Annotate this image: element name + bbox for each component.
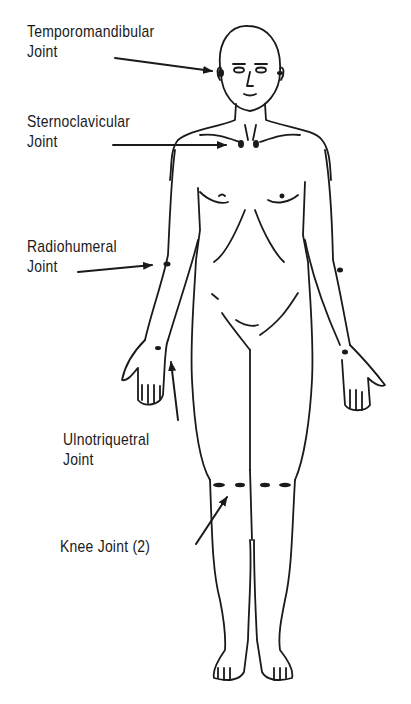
arrow-ulnotriquetral bbox=[171, 362, 178, 420]
joint-mark-tmj-right bbox=[277, 71, 283, 75]
joint-marks-knee bbox=[213, 483, 291, 487]
legs bbox=[210, 470, 295, 680]
left-arm bbox=[122, 150, 198, 405]
joint-mark-sc-right bbox=[253, 140, 259, 148]
torso bbox=[170, 104, 331, 480]
joint-mark-sc-left bbox=[238, 140, 244, 148]
joint-mark-ulnotriquetral-left bbox=[155, 346, 161, 350]
joint-mark-tmj-left bbox=[218, 69, 224, 77]
joint-mark-radiohumeral-right bbox=[337, 268, 343, 273]
arrow-radiohumeral bbox=[78, 265, 152, 272]
right-arm bbox=[305, 150, 385, 410]
body-figure bbox=[0, 0, 411, 704]
head bbox=[217, 26, 283, 111]
joint-mark-ulnotriquetral-right bbox=[342, 350, 348, 355]
arrow-temporomandibular bbox=[115, 58, 212, 71]
joint-mark-radiohumeral-left bbox=[164, 262, 171, 267]
